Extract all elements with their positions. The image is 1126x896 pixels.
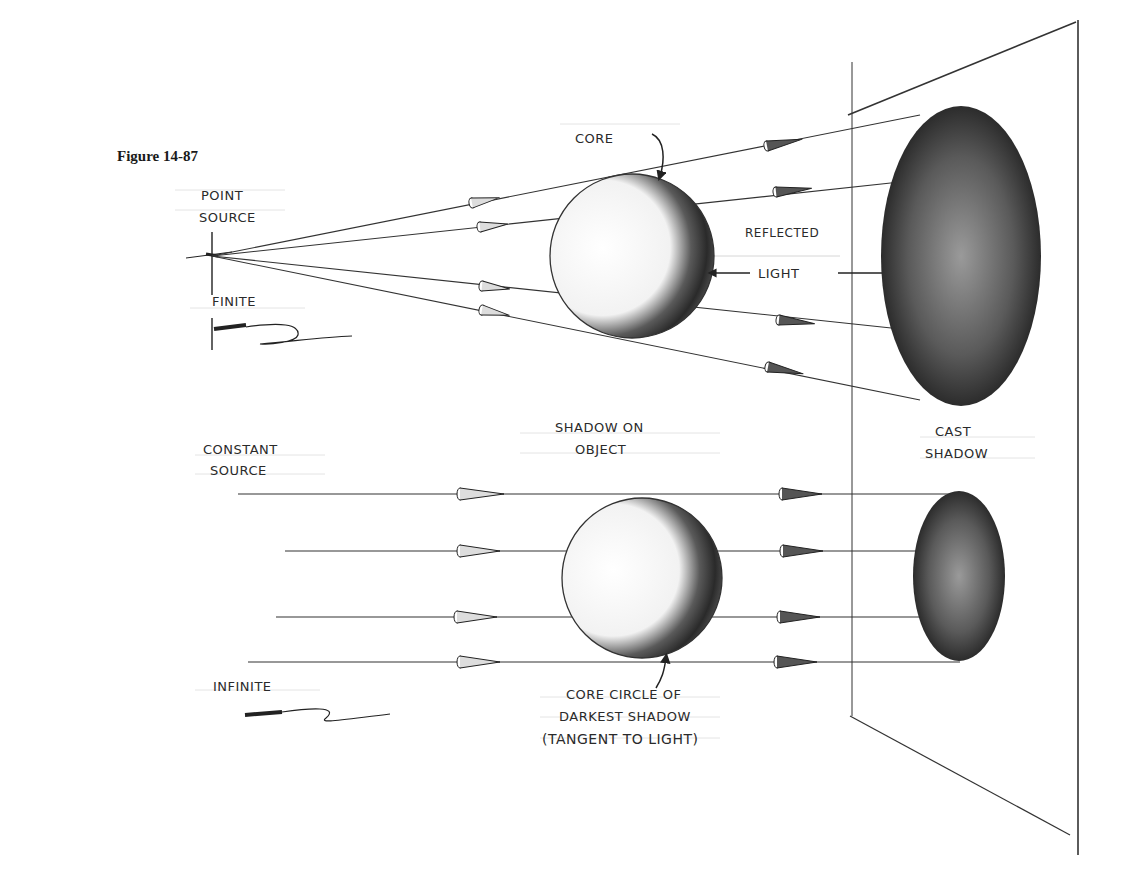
reflected-label: REFLECTED [745, 226, 819, 240]
infinite-direction-arrow [245, 709, 390, 721]
cast-shadow-label-line1: CAST [935, 424, 971, 439]
point-source-label-line2: SOURCE [199, 210, 256, 225]
sphere-top [550, 174, 714, 338]
light-label: LIGHT [758, 266, 799, 281]
constant-source-label-line1: CONSTANT [203, 442, 278, 457]
finite-label: FINITE [212, 294, 256, 309]
cast-shadow-label-line2: SHADOW [925, 446, 988, 461]
point-source-label-line1: POINT [201, 188, 243, 203]
infinite-label: INFINITE [213, 679, 272, 694]
core-circle-label-line3: (TANGENT TO LIGHT) [542, 731, 699, 747]
constant-source-label-line2: SOURCE [210, 463, 267, 478]
sphere-bottom [562, 498, 722, 658]
cast-shadow-top [881, 106, 1041, 406]
core-circle-label-line2: DARKEST SHADOW [559, 709, 691, 724]
shadow-on-object-label-line1: SHADOW ON [555, 420, 644, 435]
core-label: CORE [575, 131, 614, 146]
core-circle-label-line1: CORE CIRCLE OF [566, 687, 681, 702]
core-arrow [652, 134, 663, 176]
shadow-on-object-label-line2: OBJECT [575, 442, 626, 457]
light-and-shadow-diagram: POINT SOURCE FINITE CORE REFLECTED LIGHT… [0, 0, 1126, 896]
cast-shadow-bottom [913, 491, 1005, 661]
